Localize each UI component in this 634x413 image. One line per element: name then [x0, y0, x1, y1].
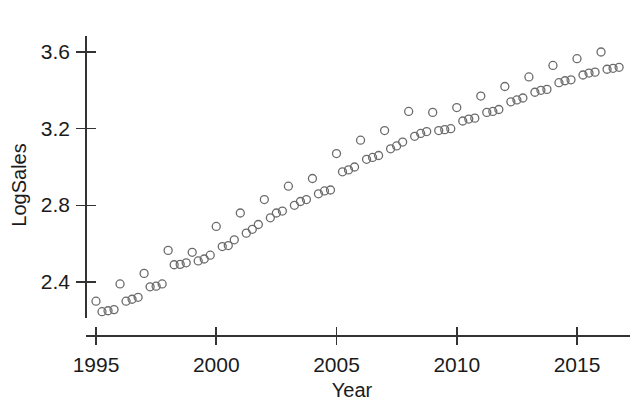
data-point	[188, 248, 196, 256]
data-point	[260, 196, 268, 204]
data-point	[164, 246, 172, 254]
data-point	[236, 209, 244, 217]
data-point	[116, 280, 124, 288]
y-axis-tick-labels: 2.42.83.23.6	[41, 40, 71, 293]
data-point	[399, 138, 407, 146]
y-tick-label-2.4: 2.4	[41, 270, 71, 293]
data-point	[206, 251, 214, 259]
x-tick-label-2005: 2005	[313, 353, 360, 376]
data-point	[284, 182, 292, 190]
y-tick-label-3.2: 3.2	[41, 117, 70, 140]
x-axis-title: Year	[332, 379, 373, 401]
data-point	[254, 221, 262, 229]
x-tick-label-2010: 2010	[433, 353, 480, 376]
data-point	[212, 222, 220, 230]
data-point	[405, 107, 413, 115]
data-point	[429, 108, 437, 116]
data-point	[333, 150, 341, 158]
log-sales-scatter-chart: 2.42.83.23.6 19952000200520102015 LogSal…	[0, 0, 634, 413]
y-tick-label-3.6: 3.6	[41, 40, 70, 63]
data-point	[381, 127, 389, 135]
data-point	[453, 104, 461, 112]
data-point	[357, 136, 365, 144]
y-axis-title: LogSales	[8, 143, 30, 226]
x-tick-label-2000: 2000	[193, 353, 240, 376]
data-point	[597, 48, 605, 56]
y-tick-label-2.8: 2.8	[41, 193, 70, 216]
data-point	[92, 297, 100, 305]
data-points-group	[92, 48, 623, 316]
x-tick-label-2015: 2015	[554, 353, 601, 376]
data-point	[573, 55, 581, 63]
data-point	[477, 92, 485, 100]
data-point	[230, 236, 238, 244]
data-point	[501, 83, 509, 91]
x-tick-label-1995: 1995	[73, 353, 120, 376]
data-point	[549, 61, 557, 69]
x-axis-tick-labels: 19952000200520102015	[73, 353, 601, 376]
scatter-plot-figure: 2.42.83.23.6 19952000200520102015 LogSal…	[0, 0, 634, 413]
data-point	[308, 175, 316, 183]
data-point	[140, 269, 148, 277]
data-point	[525, 73, 533, 81]
